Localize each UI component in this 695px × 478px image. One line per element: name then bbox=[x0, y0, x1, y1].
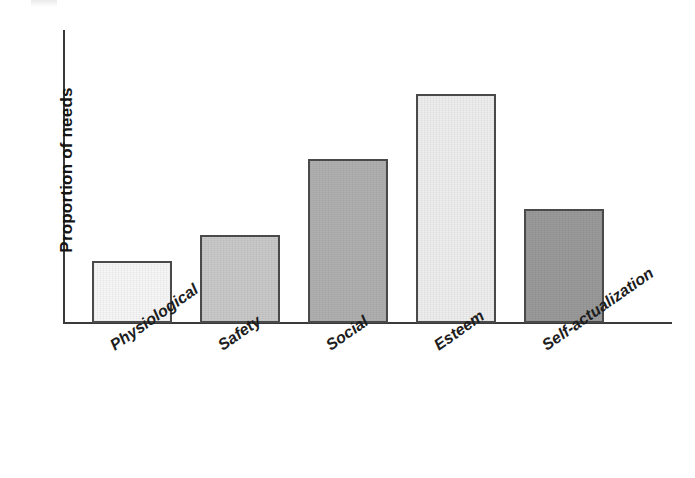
bar-chart-figure: Proportion of needs PhysiologicalSafetyS… bbox=[0, 0, 695, 478]
bar-esteem bbox=[416, 94, 496, 323]
bar-social bbox=[308, 159, 388, 323]
plot-area bbox=[63, 30, 672, 323]
bar-safety bbox=[200, 235, 280, 323]
scan-artifact bbox=[31, 0, 57, 7]
